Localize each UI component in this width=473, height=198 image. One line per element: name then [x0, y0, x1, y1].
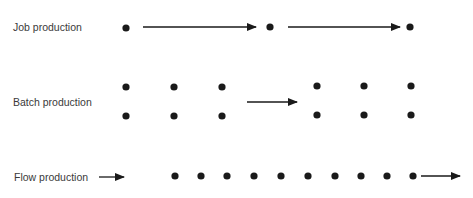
dot-icon	[223, 172, 230, 179]
dot-icon	[218, 112, 225, 119]
dot-icon	[171, 172, 178, 179]
dot-icon	[360, 111, 367, 118]
dot-icon	[122, 112, 129, 119]
dot-icon	[170, 83, 177, 90]
dot-icon	[277, 172, 284, 179]
batch-production-row: Batch production	[13, 82, 415, 119]
dot-icon	[331, 172, 338, 179]
dot-icon	[304, 172, 311, 179]
flow-production-label: Flow production	[14, 171, 88, 183]
dot-icon	[357, 172, 364, 179]
dot-icon	[360, 82, 367, 89]
dot-icon	[266, 23, 273, 30]
dot-icon	[407, 82, 414, 89]
dot-icon	[250, 172, 257, 179]
production-types-diagram: Job production Batch production Flow pro…	[0, 0, 473, 198]
dot-icon	[313, 82, 320, 89]
dot-icon	[170, 112, 177, 119]
dot-icon	[122, 24, 129, 31]
dot-icon	[406, 23, 413, 30]
dot-icon	[122, 83, 129, 90]
dot-icon	[383, 172, 390, 179]
dot-icon	[313, 111, 320, 118]
dot-icon	[409, 172, 416, 179]
batch-production-label: Batch production	[13, 96, 92, 108]
job-production-row: Job production	[13, 21, 414, 33]
flow-production-row: Flow production	[14, 171, 460, 183]
dot-icon	[218, 83, 225, 90]
dot-icon	[197, 172, 204, 179]
dot-icon	[407, 111, 414, 118]
job-production-label: Job production	[13, 21, 82, 33]
